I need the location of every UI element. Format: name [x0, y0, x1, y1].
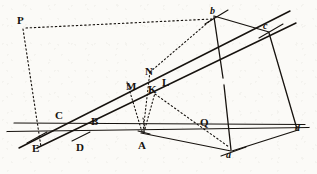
label-point-p: P — [17, 15, 24, 26]
label-point-c-upper: c — [263, 21, 267, 31]
label-point-l: L — [162, 77, 169, 88]
label-point-d-right: d — [295, 123, 300, 133]
label-point-k: K — [148, 84, 157, 95]
geometry-figure: P C B E D A M N K L Q b c d a — [0, 0, 317, 174]
dotted-k-to-q-a — [155, 94, 229, 147]
label-point-a: A — [138, 140, 146, 151]
label-point-d: D — [76, 142, 84, 153]
tick-a-vertex — [221, 147, 246, 156]
label-point-b-upper: b — [210, 6, 215, 16]
label-point-c: C — [55, 110, 63, 121]
label-point-b: B — [91, 116, 98, 127]
label-point-q: Q — [200, 117, 209, 128]
label-point-m: M — [126, 81, 136, 92]
line-c-d — [269, 33, 297, 129]
line-a-to-a-lower — [141, 133, 231, 151]
dotted-p-to-l — [26, 19, 212, 28]
line-a-d — [232, 130, 298, 151]
figure-canvas — [0, 0, 317, 174]
label-point-n: N — [145, 66, 153, 77]
line-transversal-ecbq — [14, 123, 305, 125]
line-b-a-lower — [224, 85, 231, 150]
line-diagonal-e-b — [19, 11, 290, 148]
label-point-e: E — [32, 143, 39, 154]
dotted-p-to-e — [23, 29, 41, 147]
dotted-n-to-b — [150, 19, 212, 72]
line-b-c — [214, 16, 269, 32]
line-b-a — [214, 17, 223, 78]
tick-d-vertex — [72, 132, 90, 141]
label-point-a-lower: a — [226, 150, 231, 160]
